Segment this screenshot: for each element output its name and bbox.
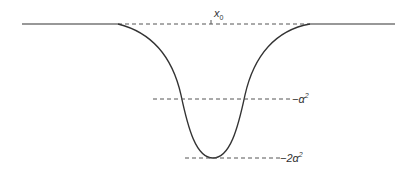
two-alpha-squared-label: −2α2: [280, 151, 303, 164]
potential-well-diagram: x0 −α2 −2α2: [0, 0, 407, 170]
alpha-squared-label: −α2: [292, 92, 309, 105]
x0-label: x0: [213, 7, 224, 21]
well-curve: [118, 24, 310, 158]
